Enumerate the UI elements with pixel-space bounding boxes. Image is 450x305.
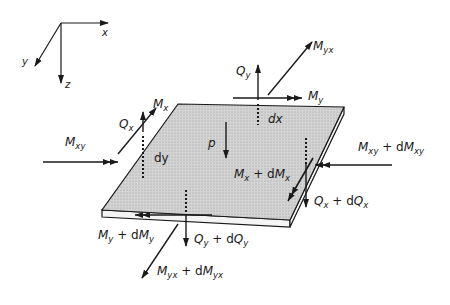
myx-dmyx-label: Myx + dMyx [157,264,224,280]
z-axis-label: z [64,79,71,90]
myx-arrow [268,42,312,95]
mxy-dmxy-label: Mxy + dMxy [358,140,425,156]
y-axis-label: y [21,56,29,67]
p-label: p [207,136,216,150]
coordinate-axes: x y z [21,23,108,90]
my-dmy-label: My + dMy [98,228,155,244]
qx-dqx-label: Qx + dQx [314,194,369,210]
myx-label: Myx [313,39,334,55]
qy-label: Qy [236,64,251,80]
mxy-label: Mxy [65,135,86,151]
qx-label: Qx [119,117,134,133]
plate-top-surface [102,104,344,220]
dy-label: dy [154,151,169,165]
plate-element [102,104,344,227]
qy-dqy-label: Qy + dQy [194,232,249,248]
mx-label: Mx [153,97,169,113]
x-axis-label: x [101,27,108,38]
mx-dmx-label: Mx + dMx [234,167,291,183]
my-label: My [308,89,324,105]
plate-diagram: x y z Qy Myx My dx Qx Mx Mxy dy p [0,0,450,305]
y-axis-arrow [35,23,61,66]
dx-label: dx [268,112,284,126]
